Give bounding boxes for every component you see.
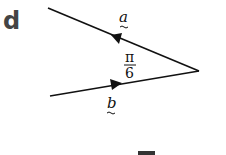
cropped-bar [138,151,155,155]
vector-b-label: b [107,94,117,112]
tilde-b-icon [107,112,115,114]
vector-a-label: a [119,8,128,26]
vector-angle-diagram: d a π 6 b [0,0,226,155]
tilde-a-icon [120,26,128,28]
angle-denominator: 6 [125,65,134,81]
angle-numerator: π [125,49,134,65]
part-label: d [3,7,20,35]
